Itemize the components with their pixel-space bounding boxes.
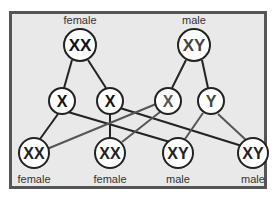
inheritance-diagram: female XX male XY X X X Y XX female XX f…: [0, 0, 279, 205]
offspring-label: male: [241, 173, 265, 185]
offspring-genotype: XY: [242, 145, 264, 162]
offspring-genotype: XY: [167, 145, 189, 162]
parent-gamete-lines: [64, 60, 208, 88]
offspring-3: XY male: [163, 138, 193, 185]
gamete-female-x1: X: [49, 88, 75, 114]
parent-genotype: XX: [69, 36, 92, 55]
parent-label: male: [182, 14, 206, 26]
offspring-1: XX female: [17, 138, 50, 185]
gamete-chromosome: Y: [206, 93, 217, 110]
gamete-female-x2: X: [97, 88, 123, 114]
gamete-chromosome: X: [163, 93, 174, 110]
gamete-male-x: X: [155, 88, 181, 114]
offspring-genotype: XX: [23, 145, 45, 162]
offspring-label: female: [17, 173, 50, 185]
parent-male: male XY: [178, 14, 210, 61]
offspring-4: XY male: [238, 138, 268, 185]
offspring-label: female: [93, 173, 126, 185]
offspring-label: male: [166, 173, 190, 185]
parent-female: female XX: [63, 14, 96, 61]
offspring-2: XX female: [93, 138, 126, 185]
gamete-male-y: Y: [198, 88, 224, 114]
parent-label: female: [63, 14, 96, 26]
gamete-chromosome: X: [105, 93, 116, 110]
offspring-genotype: XX: [99, 145, 121, 162]
parent-genotype: XY: [183, 36, 206, 55]
gamete-chromosome: X: [57, 93, 68, 110]
